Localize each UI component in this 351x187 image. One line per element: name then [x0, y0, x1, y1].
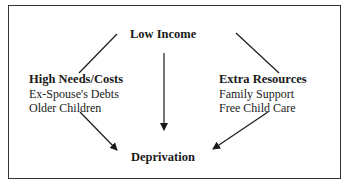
node-label: Extra Resources — [219, 72, 307, 87]
node-extra-resources: Extra Resources Family Support Free Chil… — [219, 72, 307, 115]
node-low-income: Low Income — [130, 24, 196, 42]
edge-low-to-extra — [236, 33, 279, 73]
node-item: Older Children — [29, 101, 123, 115]
arrow-high-to-deprivation — [80, 112, 117, 150]
node-label: Deprivation — [131, 150, 195, 164]
node-label: Low Income — [130, 27, 196, 41]
node-high-needs: High Needs/Costs Ex-Spouse's Debts Older… — [29, 72, 123, 115]
arrow-extra-to-deprivation — [213, 112, 268, 149]
edge-low-to-high — [79, 34, 117, 73]
node-deprivation: Deprivation — [131, 147, 195, 165]
node-item: Family Support — [219, 87, 307, 101]
node-item: Free Child Care — [219, 101, 307, 115]
node-label: High Needs/Costs — [29, 72, 123, 87]
node-item: Ex-Spouse's Debts — [29, 87, 123, 101]
